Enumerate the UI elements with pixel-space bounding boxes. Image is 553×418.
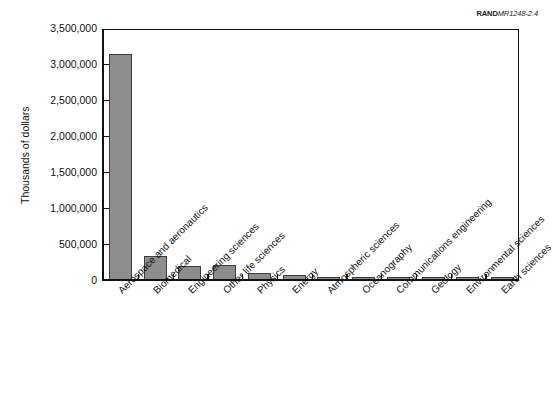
y-tick-mark (103, 28, 110, 29)
y-axis-title: Thousands of dollars (18, 85, 32, 225)
y-tick-label: 3,500,000 (50, 22, 97, 34)
y-tick-label: 500,000 (59, 238, 97, 250)
y-tick-label: 0 (91, 274, 97, 286)
bar (109, 54, 132, 280)
source-code: MR1248-2.4 (498, 9, 538, 18)
y-tick-label: 1,000,000 (50, 202, 97, 214)
y-tick-label: 3,000,000 (50, 58, 97, 70)
y-tick-label: 1,500,000 (50, 166, 97, 178)
source-brand: RAND (476, 9, 497, 18)
source-credit: RANDMR1248-2.4 (476, 9, 538, 18)
y-tick-label: 2,000,000 (50, 130, 97, 142)
y-tick-mark (103, 280, 110, 281)
y-tick-label: 2,500,000 (50, 94, 97, 106)
